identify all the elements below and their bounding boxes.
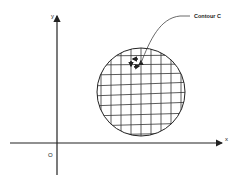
x-axis-label: x (225, 136, 228, 142)
origin-label: O (48, 152, 53, 158)
small-contour (131, 59, 141, 67)
y-axis-label: y (51, 13, 54, 19)
contour-label: Contour C (194, 13, 221, 19)
diagram-canvas: y x O Contour C (0, 0, 237, 180)
gridded-region (90, 40, 195, 145)
